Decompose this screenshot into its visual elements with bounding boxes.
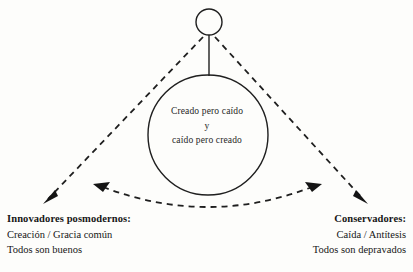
right-corner-line-1: Caída / Antítesis (313, 227, 406, 243)
center-line-3: caído pero creado (147, 133, 267, 148)
arrowhead-arc-left (93, 182, 110, 192)
left-corner-line-1: Creación / Gracia común (7, 227, 131, 243)
left-corner-line-2: Todos son buenos (7, 242, 131, 258)
top-circle-node (196, 9, 222, 35)
diagram-canvas: Creado pero caído y caído pero creado In… (0, 0, 413, 272)
right-corner-label: Conservadores: Caída / Antítesis Todos s… (313, 211, 406, 258)
center-line-1: Creado pero caído (147, 104, 267, 119)
right-corner-heading: Conservadores: (313, 211, 406, 227)
arrowhead-left-diagonal (43, 190, 58, 204)
left-corner-label: Innovadores posmodernos: Creación / Grac… (7, 211, 131, 258)
arrowhead-right-diagonal (353, 190, 368, 204)
arrowhead-arc-right (305, 182, 322, 192)
right-corner-line-2: Todos son depravados (313, 242, 406, 258)
center-node-text: Creado pero caído y caído pero creado (147, 104, 267, 148)
left-corner-heading: Innovadores posmodernos: (7, 211, 131, 227)
center-line-2: y (147, 119, 267, 134)
dashed-arc-bottom (103, 187, 312, 207)
